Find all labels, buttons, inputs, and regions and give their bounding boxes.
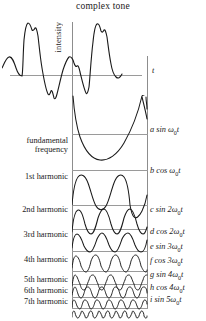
formula-harmonic-6-text: i sin 5ω0t (150, 295, 181, 304)
formula-harmonic-4: f cos 3ω0t (150, 257, 183, 267)
formula-harmonic-4b-text: g sin 4ω0t (150, 270, 183, 279)
formula-harmonic-5-text: h cos 4ω0t (150, 283, 185, 292)
formula-harmonic-5: h cos 4ω0t (150, 284, 185, 294)
row-label-harmonic-6: 6th harmonic (24, 287, 68, 295)
formula-fundamental-text: a sin ω0t (150, 125, 179, 134)
formula-harmonic-2: c sin 2ω0t (150, 206, 183, 216)
row-label-harmonic-7: 7th harmonic (24, 298, 68, 306)
formula-harmonic-6: i sin 5ω0t (150, 296, 181, 306)
waveform-plot-area (72, 22, 148, 308)
formula-harmonic-3b-text: e sin 3ω0t (150, 242, 183, 251)
formula-harmonic-4-text: f cos 3ω0t (150, 256, 183, 265)
formula-harmonic-1-text: b cos ω0t (150, 166, 181, 175)
formula-harmonic-3b: e sin 3ω0t (150, 243, 183, 253)
formula-harmonic-4b: g sin 4ω0t (150, 271, 183, 281)
formula-column: a sin ω0t b cos ω0t c sin 2ω0t d cos 2ω0… (150, 0, 206, 308)
row-label-harmonic-1: 1st harmonic (25, 173, 68, 181)
row-label-fundamental: fundamental frequency (27, 136, 68, 155)
row-label-harmonic-4: 4th harmonic (24, 256, 68, 264)
formula-harmonic-1: b cos ω0t (150, 167, 181, 177)
row-label-harmonic-2: 2nd harmonic (22, 206, 68, 214)
formula-harmonic-3-text: d cos 2ω0t (150, 227, 185, 236)
formula-fundamental: a sin ω0t (150, 126, 179, 136)
harmonic-6-waveform (72, 309, 148, 321)
row-label-harmonic-5: 5th harmonic (24, 276, 68, 284)
row-label-harmonic-3: 3rd harmonic (24, 231, 68, 239)
formula-harmonic-2-text: c sin 2ω0t (150, 205, 183, 214)
fundamental-frequency-waveform-tail (72, 95, 148, 173)
formula-harmonic-3: d cos 2ω0t (150, 228, 185, 238)
